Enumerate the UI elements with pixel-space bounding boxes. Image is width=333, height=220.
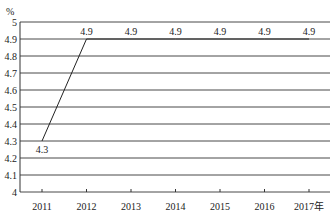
x-tick-labels: 2011201220132014201520162017年 bbox=[32, 200, 324, 212]
x-tick-label: 2017年 bbox=[294, 200, 324, 212]
y-tick-label: 4.5 bbox=[5, 102, 18, 113]
y-tick-label: 4.3 bbox=[5, 136, 18, 147]
y-tick-label: 4.4 bbox=[5, 119, 18, 130]
x-tick-label: 2014 bbox=[166, 201, 186, 212]
x-tick-label: 2012 bbox=[77, 201, 97, 212]
data-label: 4.9 bbox=[303, 26, 316, 37]
y-tick-label: 4.6 bbox=[5, 85, 18, 96]
y-axis-unit-label: % bbox=[6, 6, 14, 17]
x-tick-label: 2016 bbox=[255, 201, 275, 212]
line-chart: 44.14.24.34.44.54.64.74.84.95 2011201220… bbox=[0, 0, 333, 220]
y-tick-label: 4.2 bbox=[5, 153, 18, 164]
x-tick-label: 2013 bbox=[121, 201, 141, 212]
data-label: 4.9 bbox=[169, 26, 182, 37]
data-label: 4.9 bbox=[258, 26, 271, 37]
y-tick-label: 4.8 bbox=[5, 51, 18, 62]
y-tick-label: 4.7 bbox=[5, 68, 18, 79]
gridlines bbox=[20, 22, 330, 192]
y-tick-label: 4.9 bbox=[5, 34, 18, 45]
data-label: 4.9 bbox=[80, 26, 93, 37]
chart-canvas: 44.14.24.34.44.54.64.74.84.95 2011201220… bbox=[0, 0, 333, 220]
data-label: 4.9 bbox=[214, 26, 227, 37]
y-tick-label: 4 bbox=[12, 187, 17, 198]
x-tick-label: 2015 bbox=[210, 201, 230, 212]
x-tick-label: 2011 bbox=[32, 201, 52, 212]
data-label: 4.3 bbox=[36, 144, 49, 155]
y-tick-label: 5 bbox=[12, 17, 17, 28]
y-tick-label: 4.1 bbox=[5, 170, 18, 181]
data-labels: 4.34.94.94.94.94.94.9 bbox=[36, 26, 316, 155]
data-label: 4.9 bbox=[125, 26, 138, 37]
y-tick-labels: 44.14.24.34.44.54.64.74.84.95 bbox=[5, 17, 18, 198]
